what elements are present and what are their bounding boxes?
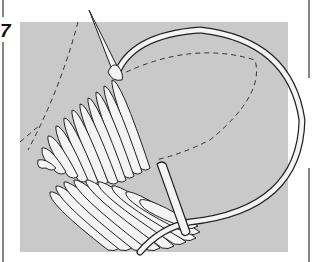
satin-stitch-illustration (0, 0, 322, 262)
